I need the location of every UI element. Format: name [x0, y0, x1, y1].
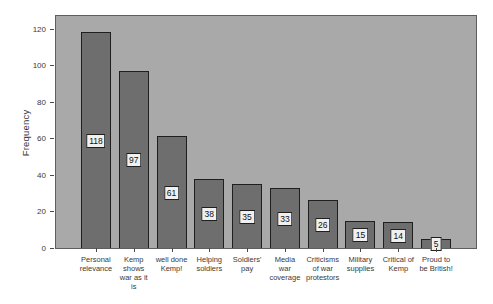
y-tick-label: 80 [37, 98, 46, 108]
bar-slot: 118Personal relevance [77, 16, 115, 248]
bar-slot: 61well done Kemp! [153, 16, 191, 248]
y-tick-mark [50, 175, 54, 176]
x-tick-mark [323, 248, 324, 252]
y-tick-mark [50, 102, 54, 103]
bar-value-label: 61 [164, 186, 179, 200]
bar-value-label: 14 [391, 229, 406, 243]
y-axis: 020406080100120 [0, 15, 55, 249]
y-tick-label: 120 [33, 25, 46, 35]
x-tick-mark [96, 248, 97, 252]
frequency-bar-chart: Frequency 020406080100120 118Personal re… [0, 0, 493, 304]
bar-slot: 33Media war coverage [266, 16, 304, 248]
x-tick-mark [398, 248, 399, 252]
y-tick-mark [50, 248, 54, 249]
x-tick-mark [285, 248, 286, 252]
y-tick-label: 40 [37, 171, 46, 181]
bar-slot: 14Critical of Kemp [379, 16, 417, 248]
plot-area: 118Personal relevance97Kemp shows war as… [55, 15, 477, 249]
x-tick-mark [209, 248, 210, 252]
bar: 15 [345, 221, 375, 248]
y-tick-mark [50, 29, 54, 30]
bar-slot: 5Proud to be British! [417, 16, 455, 248]
bar-slot: 97Kemp shows war as it is [115, 16, 153, 248]
bar: 26 [308, 200, 338, 248]
y-tick-label: 60 [37, 134, 46, 144]
bar-value-label: 97 [126, 153, 141, 167]
bar: 38 [194, 179, 224, 248]
bar: 61 [157, 136, 187, 248]
x-category-label: Proud to be British! [413, 255, 459, 273]
y-tick-label: 20 [37, 207, 46, 217]
bar-value-label: 38 [202, 207, 217, 221]
x-tick-mark [172, 248, 173, 252]
x-tick-mark [360, 248, 361, 252]
y-tick-mark [50, 211, 54, 212]
x-tick-mark [247, 248, 248, 252]
y-tick-label: 100 [33, 61, 46, 71]
bar: 118 [81, 32, 111, 248]
x-tick-mark [436, 248, 437, 252]
bar-slot: 38Helping soldiers [190, 16, 228, 248]
bar-slot: 35Soldiers' pay [228, 16, 266, 248]
y-tick-mark [50, 138, 54, 139]
bar-value-label: 15 [353, 228, 368, 242]
bar: 97 [119, 71, 149, 248]
y-tick-mark [50, 65, 54, 66]
bar-slot: 15Military supplies [342, 16, 380, 248]
bar-value-label: 26 [315, 218, 330, 232]
bar-value-label: 33 [277, 212, 292, 226]
bar: 5 [421, 239, 451, 248]
y-tick-label: 0 [42, 244, 46, 254]
bar: 35 [232, 184, 262, 248]
bar: 14 [383, 222, 413, 248]
bar-slot: 26Criticisms of war protestors [304, 16, 342, 248]
x-tick-mark [134, 248, 135, 252]
bar: 33 [270, 188, 300, 248]
bar-value-label: 118 [86, 134, 106, 148]
bar-value-label: 35 [239, 210, 254, 224]
